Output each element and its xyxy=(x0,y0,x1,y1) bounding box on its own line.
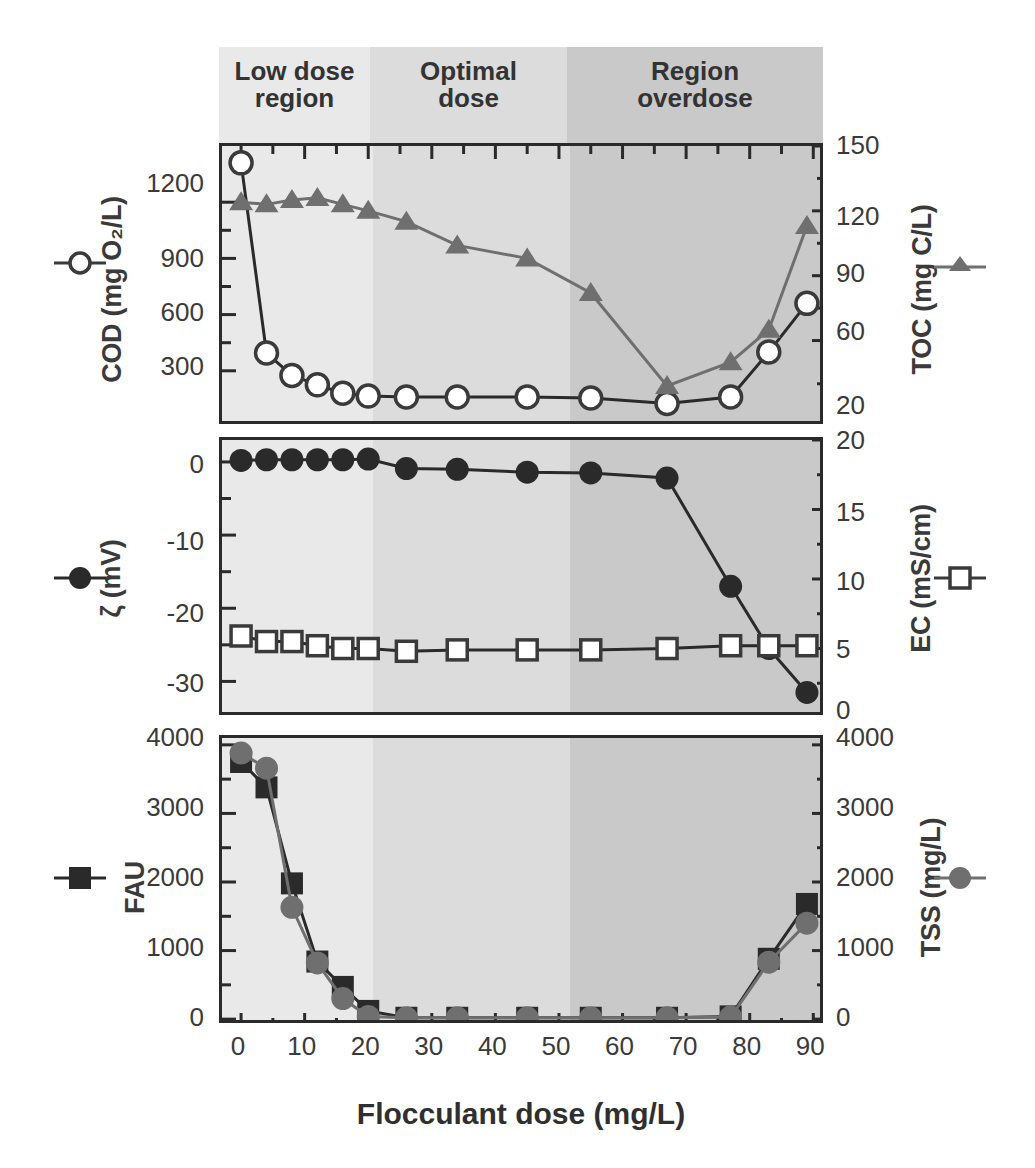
ytick-tss-2000: 2000 xyxy=(836,862,894,893)
panel1-plot-area xyxy=(222,146,823,424)
ytick-toc-120: 120 xyxy=(836,201,879,232)
ytick-cod-900: 900 xyxy=(120,243,204,274)
ytick-cod-1200: 1200 xyxy=(120,168,204,199)
legend-marker-ec xyxy=(932,563,988,593)
ytick-tss-3000: 3000 xyxy=(836,792,894,823)
figure-root: Low dose region Optimal dose Region over… xyxy=(0,0,1035,1168)
xtick-10: 10 xyxy=(272,1031,332,1062)
ytick-ec-15: 15 xyxy=(836,497,865,528)
xaxis-title: Flocculant dose (mg/L) xyxy=(219,1097,823,1131)
xtick-90: 90 xyxy=(780,1031,840,1062)
ytick-toc-150: 150 xyxy=(836,130,879,161)
ytick-fau-4000: 4000 xyxy=(76,722,204,753)
xtick-0: 0 xyxy=(208,1031,268,1062)
ytick-tss-1000: 1000 xyxy=(836,932,894,963)
legend-marker-tss xyxy=(932,863,988,893)
ytick-zeta-m20: -20 xyxy=(120,598,204,629)
xtick-20: 20 xyxy=(335,1031,395,1062)
axis-title-fau: FAU xyxy=(120,838,151,938)
panel3-plot-area xyxy=(222,738,823,1023)
axis-title-cod: COD (mg O₂/L) xyxy=(97,170,128,410)
ytick-tss-0: 0 xyxy=(836,1002,850,1033)
region-label-overdose: Region overdose xyxy=(567,58,823,113)
ytick-toc-90: 90 xyxy=(836,258,865,289)
xtick-80: 80 xyxy=(717,1031,777,1062)
legend-marker-toc xyxy=(932,250,988,280)
ytick-ec-10: 10 xyxy=(836,566,865,597)
axis-title-toc: TOC (mg C/L) xyxy=(907,170,938,410)
ytick-zeta-m30: -30 xyxy=(120,668,204,699)
legend-marker-cod xyxy=(52,248,108,278)
panel-cod-toc xyxy=(219,143,823,424)
ytick-toc-20: 20 xyxy=(836,390,865,421)
legend-marker-fau xyxy=(52,863,108,893)
ytick-cod-600: 600 xyxy=(120,297,204,328)
xtick-40: 40 xyxy=(462,1031,522,1062)
xtick-50: 50 xyxy=(526,1031,586,1062)
panel-fau-tss xyxy=(219,735,823,1023)
xtick-60: 60 xyxy=(590,1031,650,1062)
xtick-70: 70 xyxy=(653,1031,713,1062)
legend-marker-zeta xyxy=(52,563,108,593)
ytick-cod-300: 300 xyxy=(120,351,204,382)
region-label-optimal: Optimal dose xyxy=(370,58,567,113)
ytick-toc-60: 60 xyxy=(836,316,865,347)
ytick-fau-3000: 3000 xyxy=(76,792,204,823)
ytick-ec-20: 20 xyxy=(836,425,865,456)
ytick-ec-5: 5 xyxy=(836,634,850,665)
ytick-fau-0: 0 xyxy=(76,1002,204,1033)
ytick-zeta-m10: -10 xyxy=(120,526,204,557)
region-label-low: Low dose region xyxy=(219,58,370,113)
ytick-zeta-0: 0 xyxy=(120,449,204,480)
panel-zeta-ec xyxy=(219,437,823,715)
xtick-30: 30 xyxy=(399,1031,459,1062)
ytick-tss-4000: 4000 xyxy=(836,722,894,753)
panel2-plot-area xyxy=(222,440,823,715)
